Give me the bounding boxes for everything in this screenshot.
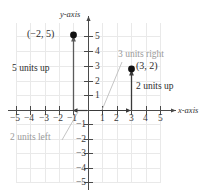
- y-tick--2: −2: [76, 135, 86, 145]
- y-tick-5: 5: [95, 32, 100, 42]
- x-tick-5: 5: [158, 114, 163, 124]
- x-tick--2: −2: [53, 114, 63, 124]
- point-b-label: (3, 2): [136, 61, 158, 71]
- vector-five-units-up: [71, 36, 76, 111]
- x-tick-4: 4: [143, 114, 148, 124]
- y-tick-3: 3: [95, 62, 100, 72]
- x-axis-arrowhead: [171, 108, 176, 112]
- y-tick--1: −1: [76, 120, 86, 130]
- coordinate-plane-figure: y-axis x-axis −5 −4 −3 −2 −1 1 2 3 4 5 5…: [0, 0, 207, 196]
- annotation-five-units-up: 5 units up: [12, 64, 49, 74]
- y-tick-4: 4: [95, 47, 100, 57]
- x-tick-1: 1: [100, 114, 105, 124]
- annotation-three-units-right: 3 units right: [118, 50, 164, 60]
- y-axis-arrowhead: [86, 16, 90, 21]
- y-tick--4: −4: [76, 164, 86, 174]
- x-tick--4: −4: [24, 114, 34, 124]
- vector-two-units-up: [129, 70, 134, 111]
- x-tick--5: −5: [10, 114, 20, 124]
- annotation-two-units-up: 2 units up: [136, 82, 173, 92]
- annotation-two-units-left: 2 units left: [10, 133, 51, 143]
- data-point-b: [128, 66, 135, 73]
- y-axis-label: y-axis: [60, 10, 80, 19]
- axis-lines: [8, 16, 176, 190]
- y-tick-2: 2: [95, 77, 100, 87]
- x-axis-label: x-axis: [178, 106, 198, 115]
- x-tick--3: −3: [39, 114, 49, 124]
- data-point-a: [70, 32, 77, 39]
- y-tick--3: −3: [76, 149, 86, 159]
- x-tick-2: 2: [114, 114, 119, 124]
- y-tick-1: 1: [95, 91, 100, 101]
- y-tick--5: −5: [76, 178, 86, 188]
- leader-line-three-units-right: [102, 62, 122, 110]
- vector-three-units-right: [90, 108, 131, 112]
- x-tick-3: 3: [129, 114, 134, 124]
- point-a-label: (−2, 5): [27, 29, 54, 39]
